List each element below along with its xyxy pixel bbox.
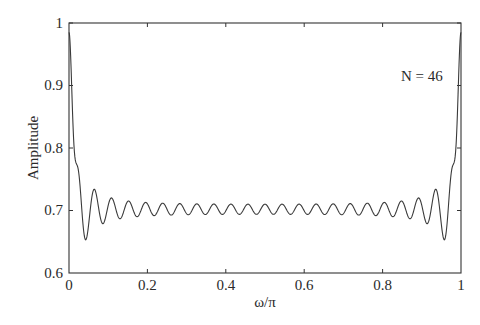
y-tick-label: 1: [56, 15, 64, 31]
y-tick-label: 0.8: [44, 140, 63, 156]
x-tick-label: 0.4: [216, 277, 235, 293]
plot-area: [69, 23, 461, 273]
x-tick-label: 0.6: [295, 277, 314, 293]
y-tick-label: 0.9: [44, 77, 63, 93]
x-axis-label: ω/π: [254, 294, 276, 310]
y-axis-label: Amplitude: [25, 116, 41, 181]
x-tick-label: 0: [65, 277, 73, 293]
amplitude-chart: 1 0.9 0.8 0.7 0.6 0 0.2 0.4 0.6 0.8 1 ω/…: [0, 0, 480, 325]
x-tick-label: 0.2: [138, 277, 157, 293]
y-tick-label: 0.6: [44, 265, 63, 281]
n-annotation: N = 46: [401, 68, 443, 84]
y-tick-label: 0.7: [44, 202, 63, 218]
x-tick-label: 0.8: [373, 277, 392, 293]
x-tick-label: 1: [457, 277, 465, 293]
